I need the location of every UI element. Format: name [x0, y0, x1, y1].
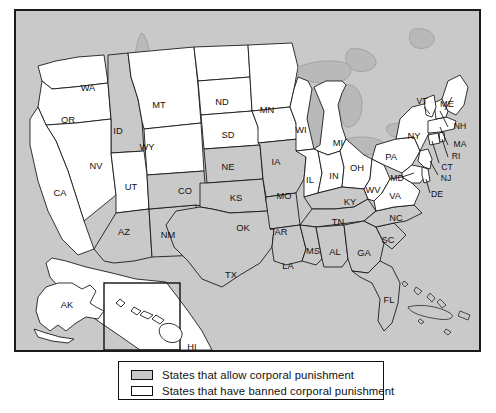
- state-label-GA: GA: [357, 248, 371, 258]
- state-label-FL: FL: [384, 295, 395, 305]
- state-CO[interactable]: [147, 171, 207, 209]
- legend-row-allow: States that allow corporal punishment: [131, 367, 383, 382]
- state-label-AZ: AZ: [118, 227, 130, 237]
- map-frame: WAORIDMTWYNDSDMNNVUTCAAZNMCONEIAWIKSMOIL…: [14, 9, 481, 352]
- state-label-MI: MI: [333, 138, 343, 148]
- state-label-MA: MA: [454, 139, 467, 149]
- map-legend: States that allow corporal punishment St…: [118, 361, 384, 400]
- legend-swatch-allow: [131, 370, 153, 380]
- us-map-svg: WAORIDMTWYNDSDMNNVUTCAAZNMCONEIAWIKSMOIL…: [16, 11, 479, 350]
- legend-label-allow: States that allow corporal punishment: [162, 369, 354, 381]
- state-MN[interactable]: [248, 43, 298, 111]
- state-label-CA: CA: [54, 188, 68, 198]
- state-label-AK: AK: [61, 300, 74, 310]
- state-label-MO: MO: [277, 191, 292, 201]
- state-label-SD: SD: [222, 130, 235, 140]
- state-label-VA: VA: [389, 191, 402, 201]
- state-label-MD: MD: [390, 173, 403, 183]
- state-SD[interactable]: [198, 77, 252, 115]
- legend-row-banned: States that have banned corporal punishm…: [131, 383, 383, 398]
- state-label-OR: OR: [61, 115, 75, 125]
- state-label-TX: TX: [225, 270, 237, 280]
- state-label-LA: LA: [282, 261, 294, 271]
- map-page: WAORIDMTWYNDSDMNNVUTCAAZNMCONEIAWIKSMOIL…: [0, 0, 496, 413]
- state-label-WA: WA: [81, 83, 96, 93]
- state-label-NE: NE: [222, 162, 235, 172]
- state-label-OH: OH: [350, 163, 364, 173]
- state-label-VT: VT: [417, 96, 429, 106]
- state-label-KY: KY: [344, 197, 356, 207]
- state-label-NC: NC: [389, 213, 403, 223]
- state-label-WI: WI: [295, 125, 306, 135]
- state-label-WY: WY: [140, 142, 155, 152]
- legend-swatch-banned: [131, 386, 153, 396]
- state-label-MS: MS: [306, 246, 320, 256]
- state-label-MT: MT: [152, 100, 166, 110]
- state-label-IN: IN: [329, 171, 338, 181]
- state-label-TN: TN: [332, 217, 344, 227]
- state-label-NJ: NJ: [441, 173, 452, 183]
- state-label-OK: OK: [236, 223, 250, 233]
- state-label-NV: NV: [90, 161, 104, 171]
- state-label-CO: CO: [178, 186, 192, 196]
- state-label-SC: SC: [382, 235, 395, 245]
- state-label-ND: ND: [215, 97, 229, 107]
- state-label-WV: WV: [366, 185, 382, 195]
- state-label-NY: NY: [408, 131, 421, 141]
- state-label-ID: ID: [113, 126, 123, 136]
- state-label-RI: RI: [452, 151, 461, 161]
- state-label-AL: AL: [329, 247, 340, 257]
- state-label-UT: UT: [125, 182, 138, 192]
- state-label-MN: MN: [260, 105, 274, 115]
- state-label-PA: PA: [385, 152, 398, 162]
- state-label-KS: KS: [230, 193, 242, 203]
- state-label-HI: HI: [187, 342, 196, 350]
- state-label-AR: AR: [275, 227, 288, 237]
- legend-label-banned: States that have banned corporal punishm…: [162, 385, 394, 397]
- state-label-IL: IL: [306, 175, 314, 185]
- state-CT[interactable]: [428, 133, 440, 145]
- state-label-IA: IA: [272, 157, 282, 167]
- state-ND[interactable]: [194, 45, 250, 81]
- state-label-DE: DE: [431, 189, 443, 199]
- state-label-ME: ME: [440, 99, 454, 109]
- state-label-NH: NH: [454, 121, 466, 131]
- state-label-NM: NM: [161, 230, 175, 240]
- state-label-CT: CT: [441, 162, 453, 172]
